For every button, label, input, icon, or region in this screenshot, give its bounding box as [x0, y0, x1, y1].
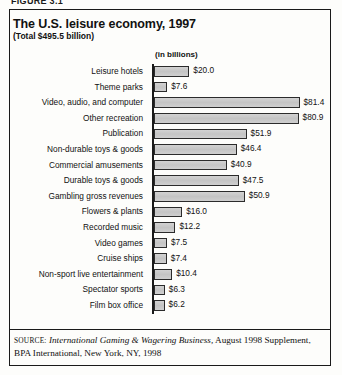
bar: [154, 191, 245, 202]
bar-row: Non-durable toys & goods$46.4: [0, 142, 342, 158]
bar-category-label: Recorded music: [0, 222, 143, 232]
bar: [154, 113, 299, 124]
source-publication: International Gaming & Wagering Business…: [49, 335, 213, 345]
chart-title: The U.S. leisure economy, 1997: [13, 17, 196, 31]
bar-row: Theme parks$7.6: [0, 80, 342, 96]
bar: [154, 175, 239, 186]
bar-category-label: Publication: [0, 128, 143, 138]
bar: [154, 222, 176, 233]
bar-value-label: $7.5: [171, 237, 187, 247]
bar-fill: [154, 82, 168, 93]
bar: [154, 269, 173, 280]
bar-category-label: Film box office: [0, 300, 143, 310]
bar: [154, 207, 183, 218]
bar-category-label: Other recreation: [0, 113, 143, 123]
bar-category-label: Leisure hotels: [0, 66, 143, 76]
bar-value-label: $7.6: [171, 81, 187, 91]
bar-fill: [154, 222, 176, 233]
bar-fill: [154, 285, 165, 296]
bar-fill: [154, 97, 300, 108]
bar-value-label: $40.9: [231, 159, 252, 169]
bar-fill: [154, 144, 237, 155]
bar-category-label: Video games: [0, 238, 143, 248]
bar-category-label: Non-sport live entertainment: [0, 269, 143, 279]
figure-caption: FIGURE 3.1: [11, 0, 63, 4]
bar-value-label: $6.2: [169, 299, 185, 309]
bar-category-label: Non-durable toys & goods: [0, 144, 143, 154]
bar-fill: [154, 160, 227, 171]
bar: [154, 285, 165, 296]
bar-fill: [154, 300, 165, 311]
bar: [154, 238, 167, 249]
bar: [154, 82, 168, 93]
bar-value-label: $16.0: [186, 206, 207, 216]
bar-value-label: $80.9: [303, 112, 324, 122]
bar-row: Commercial amusements$40.9: [0, 158, 342, 174]
bar-row: Spectator sports$6.3: [0, 282, 342, 298]
bar-row: Recorded music$12.2: [0, 220, 342, 236]
bar-category-label: Commercial amusements: [0, 160, 143, 170]
bar-fill: [154, 66, 190, 77]
bar-category-label: Cruise ships: [0, 253, 143, 263]
bar-row: Gambling gross revenues$50.9: [0, 189, 342, 205]
figure-root: FIGURE 3.1 The U.S. leisure economy, 199…: [0, 0, 342, 375]
bar-category-label: Video, audio, and computer: [0, 97, 143, 107]
x-axis-label: (in billions): [155, 50, 198, 59]
bar-fill: [154, 175, 239, 186]
bar-fill: [154, 269, 173, 280]
bar-value-label: $51.9: [251, 128, 272, 138]
bar-value-label: $12.2: [179, 221, 200, 231]
bar-category-label: Gambling gross revenues: [0, 191, 143, 201]
bar-fill: [154, 129, 247, 140]
bar: [154, 129, 247, 140]
bar-fill: [154, 191, 245, 202]
bar: [154, 144, 237, 155]
bar-row: Cruise ships$7.4: [0, 251, 342, 267]
source-divider: [10, 329, 330, 330]
bar-row: Durable toys & goods$47.5: [0, 173, 342, 189]
bar-row: Leisure hotels$20.0: [0, 64, 342, 80]
bar-value-label: $47.5: [243, 175, 264, 185]
bar: [154, 160, 227, 171]
bar-value-label: $81.4: [304, 97, 325, 107]
bar-value-label: $46.4: [241, 143, 262, 153]
bar-rows: Leisure hotels$20.0Theme parks$7.6Video,…: [0, 64, 342, 314]
bar-row: Other recreation$80.9: [0, 111, 342, 127]
bar-value-label: $6.3: [169, 284, 185, 294]
chart-subtitle: (Total $495.5 billion): [13, 31, 94, 41]
bar-row: Film box office$6.2: [0, 298, 342, 314]
bar-fill: [154, 113, 299, 124]
bar-category-label: Durable toys & goods: [0, 175, 143, 185]
bar: [154, 97, 300, 108]
bar-value-label: $50.9: [249, 190, 270, 200]
bar-row: Non-sport live entertainment$10.4: [0, 267, 342, 283]
bar: [154, 66, 190, 77]
source-label: Source:: [14, 336, 47, 345]
bar-fill: [154, 238, 167, 249]
bar-fill: [154, 253, 167, 264]
bar: [154, 253, 167, 264]
bar-category-label: Theme parks: [0, 82, 143, 92]
bar-row: Video, audio, and computer$81.4: [0, 95, 342, 111]
bar-value-label: $10.4: [176, 268, 197, 278]
bar-row: Publication$51.9: [0, 126, 342, 142]
bar-value-label: $20.0: [193, 65, 214, 75]
bar-category-label: Flowers & plants: [0, 206, 143, 216]
bar-row: Video games$7.5: [0, 236, 342, 252]
bar: [154, 300, 165, 311]
bar-value-label: $7.4: [171, 253, 187, 263]
source-note: Source: International Gaming & Wagering …: [14, 334, 324, 359]
bar-row: Flowers & plants$16.0: [0, 204, 342, 220]
bar-category-label: Spectator sports: [0, 284, 143, 294]
bar-fill: [154, 207, 183, 218]
